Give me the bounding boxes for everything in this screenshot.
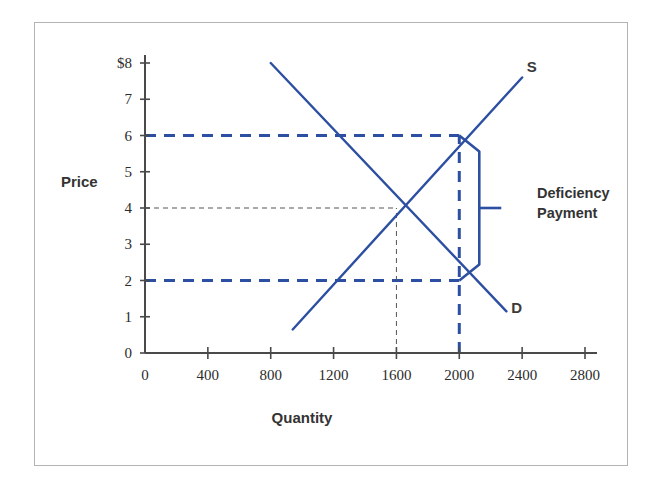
x-tick-label-2000: 2000 xyxy=(444,367,474,383)
y-tick-label-3: 3 xyxy=(125,236,133,252)
x-tick-label-1600: 1600 xyxy=(381,367,411,383)
axis-tick-labels-group: 01234567$8040080012001600200024002800 xyxy=(117,55,600,383)
demand-curve xyxy=(271,63,507,311)
x-tick-label-800: 800 xyxy=(259,367,282,383)
x-tick-label-400: 400 xyxy=(197,367,220,383)
x-tick-label-2800: 2800 xyxy=(570,367,600,383)
y-tick-label-4: 4 xyxy=(125,200,133,216)
y-tick-label-6: 6 xyxy=(125,128,133,144)
deficiency-payment-label-line2: Payment xyxy=(537,205,598,221)
y-tick-label-1: 1 xyxy=(125,309,133,325)
chart-frame: 01234567$8040080012001600200024002800 S … xyxy=(34,22,628,466)
supply-curve-label: S xyxy=(527,58,537,75)
x-tick-label-0: 0 xyxy=(141,367,149,383)
y-tick-label-0: 0 xyxy=(125,345,133,361)
x-tick-label-2400: 2400 xyxy=(507,367,537,383)
price-axis-title: Price xyxy=(61,173,98,190)
y-tick-label-7: 7 xyxy=(125,91,133,107)
y-tick-label-8: $8 xyxy=(117,55,132,71)
figure-root: 01234567$8040080012001600200024002800 S … xyxy=(0,0,661,494)
deficiency-payment-bracket xyxy=(459,136,479,281)
y-tick-label-5: 5 xyxy=(125,164,133,180)
quantity-axis-title: Quantity xyxy=(272,409,333,426)
deficiency-payment-label-line1: Deficiency xyxy=(537,185,610,201)
supply-demand-chart: 01234567$8040080012001600200024002800 S … xyxy=(35,23,626,464)
y-tick-label-2: 2 xyxy=(125,273,133,289)
axes-group xyxy=(145,55,597,353)
demand-curve-label: D xyxy=(511,299,522,316)
x-tick-label-1200: 1200 xyxy=(319,367,349,383)
deficiency-bracket-group xyxy=(459,136,501,281)
